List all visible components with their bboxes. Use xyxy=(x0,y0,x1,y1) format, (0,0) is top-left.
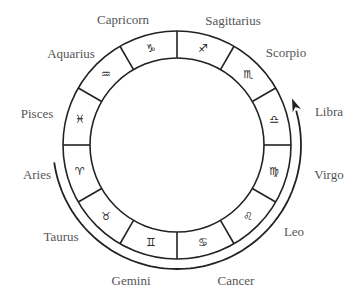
inner-ring xyxy=(90,58,264,232)
label-libra: Libra xyxy=(315,104,343,119)
glyph-cancer-icon: ♋ xyxy=(198,236,208,249)
glyph-taurus-icon: ♉ xyxy=(101,210,111,223)
glyph-leo-icon: ♌ xyxy=(243,210,253,223)
glyph-aquarius-icon: ♒ xyxy=(101,68,111,81)
label-capricorn: Capricorn xyxy=(97,12,149,27)
outer-ring xyxy=(63,31,291,259)
glyph-aries-icon: ♈ xyxy=(75,165,85,178)
label-gemini: Gemini xyxy=(112,273,151,288)
label-scorpio: Scorpio xyxy=(266,45,306,60)
label-aries: Aries xyxy=(23,167,51,182)
label-pisces: Pisces xyxy=(21,106,54,121)
sign-divider xyxy=(120,220,134,243)
zodiac-wheel-diagram: ♑♐♏♎♍♌♋♊♉♈♓♒ Capricorn Sagittarius Scorp… xyxy=(0,0,358,302)
label-cancer: Cancer xyxy=(218,273,255,288)
glyph-pisces-icon: ♓ xyxy=(75,113,85,126)
sign-divider xyxy=(221,220,235,243)
glyph-virgo-icon: ♍ xyxy=(269,165,279,178)
glyph-capricorn-icon: ♑ xyxy=(146,42,156,55)
label-sagittarius: Sagittarius xyxy=(205,13,261,28)
label-virgo: Virgo xyxy=(314,167,343,182)
sign-divider xyxy=(252,189,275,203)
glyph-gemini-icon: ♊ xyxy=(146,236,156,249)
sign-divider xyxy=(78,88,101,102)
label-aquarius: Aquarius xyxy=(47,46,95,61)
sign-divider xyxy=(120,46,134,69)
label-leo: Leo xyxy=(284,224,304,239)
sign-glyphs: ♑♐♏♎♍♌♋♊♉♈♓♒ xyxy=(75,42,279,249)
sign-divider xyxy=(221,46,235,69)
arrow-head-icon xyxy=(292,99,301,113)
sign-divider xyxy=(78,189,101,203)
glyph-sagittarius-icon: ♐ xyxy=(198,42,208,55)
label-taurus: Taurus xyxy=(43,229,78,244)
glyph-libra-icon: ♎ xyxy=(269,113,279,126)
glyph-scorpio-icon: ♏ xyxy=(243,68,253,81)
sign-dividers xyxy=(63,31,291,259)
sign-divider xyxy=(252,88,275,102)
